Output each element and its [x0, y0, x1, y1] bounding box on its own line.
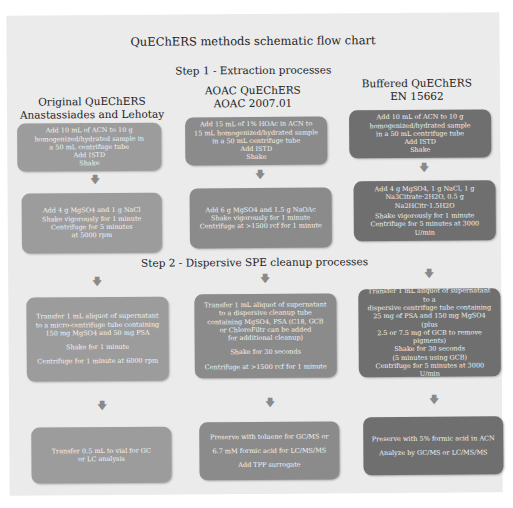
box-text-line: at 5000 rpm [72, 231, 113, 240]
aoac-cleanup-box: Transfer 1 mL aliquot of supernatantto a… [194, 293, 337, 378]
box-text-line: Preserve with toluene for GC/MS or [210, 432, 329, 441]
box-text-line: Transfer 1 mL aliquot of supernatant to … [364, 287, 494, 305]
original-final-box: Transfer 0.5 mL to vial for GCor LC anal… [31, 427, 171, 484]
box-text-line: Preserve with 5% formic acid in ACN [372, 434, 495, 443]
box-text-line: Centrifuge for 5 minutes at 3000 U/min [365, 361, 495, 379]
buffered-heading: Buffered QuEChERS EN 15662 [337, 76, 497, 103]
buffered-heading-line2: EN 15662 [337, 89, 497, 103]
box-text-line: Shake for 1 minute [66, 343, 129, 352]
buffered-heading-line1: Buffered QuEChERS [337, 76, 497, 90]
box-text-line: Transfer 0.5 mL to vial for GC [52, 446, 151, 455]
box-text-line: Shake [410, 146, 430, 154]
box-text-line: Shake [246, 153, 266, 161]
box-text-line: for additional cleanup) [228, 334, 303, 343]
flowchart-panel: QuEChERS methods schematic flow chart St… [6, 12, 502, 495]
box-text-line: a 50 mL centrifuge tube [49, 143, 129, 152]
buffered-final-box: Preserve with 5% formic acid in ACNAnaly… [363, 416, 503, 475]
box-text-line: 6.7 mM formic acid for LC/MS/MS [212, 446, 326, 455]
aoac-heading-line2: AOAC 2007.01 [173, 96, 333, 110]
original-heading-line1: Original QuEChERS [7, 95, 177, 109]
box-text-line: Na2HCitr·1.5H2O [395, 201, 455, 210]
box-text-line: 150 mg MgSO4 and 50 mg PSA [45, 329, 149, 338]
box-text-line: in a 50 mL centrifuge tube [212, 137, 300, 146]
aoac-heading-line1: AOAC QuEChERS [173, 83, 333, 97]
original-salts-box: Add 4 g MgSO4 and 1 g NaClShake vigorous… [22, 193, 162, 254]
aoac-final-box: Preserve with toluene for GC/MS or6.7 mM… [199, 421, 339, 480]
buffered-salts-box: Add 4 g MgSO4, 1 g NaCl, 1 gNa3Citrate·2… [353, 180, 495, 241]
box-text-line: Analyze by GC/MS or LC/MS/MS [379, 448, 487, 457]
box-text-line: Centrifuge for 1 minute at 6000 rpm [37, 357, 158, 366]
aoac-heading: AOAC QuEChERS AOAC 2007.01 [173, 83, 333, 110]
original-extraction-box: Add 10 mL of ACN to 10 ghomogenized/hydr… [17, 123, 161, 172]
box-text-line: Centrifuge at >1500 rcf for 1 minute [205, 362, 327, 371]
buffered-cleanup-box: Transfer 1 mL aliquot of supernatant to … [358, 288, 501, 377]
box-text-line: 2.5 or 7.5 mg of GCB to remove pigments) [365, 328, 495, 346]
aoac-salts-box: Add 6 g MgSO4 and 1.5 g NaOAcShake vigor… [190, 187, 332, 248]
box-text-line: Centrifuge for 5 minutes at 3000 U/min [360, 220, 490, 238]
box-text-line: Shake for 30 seconds [230, 348, 301, 357]
box-text-line: Shake [79, 160, 99, 168]
buffered-extraction-box: Add 10 mL of ACN to 10 ghomogenized/hydr… [349, 109, 491, 158]
box-text-line: Add ISTD [404, 138, 436, 147]
original-cleanup-box: Transfer 1 mL aliquot of supernatantto a… [26, 297, 169, 382]
box-text-line: Add TPP surrogate [238, 461, 300, 470]
step1-label: Step 1 - Extraction processes [7, 62, 500, 77]
box-text-line: Add ISTD [240, 145, 272, 154]
box-text-line: in a 50 mL centrifuge tube [376, 129, 464, 138]
box-text-line: Centrifuge at >1500 rcf for 1 minute [200, 222, 322, 231]
aoac-extraction-box: Add 15 mL of 1% HOAc in ACN to15 mL homo… [185, 116, 327, 165]
box-text-line: Centrifuge for 5 minutes [51, 223, 133, 232]
chart-title: QuEChERS methods schematic flow chart [6, 32, 499, 49]
box-text-line: Add ISTD [73, 151, 105, 160]
box-text-line: 25 mg of PSA and 150 mg MgSO4 (plus [364, 312, 494, 330]
box-text-line: or LC analysis [78, 455, 125, 464]
